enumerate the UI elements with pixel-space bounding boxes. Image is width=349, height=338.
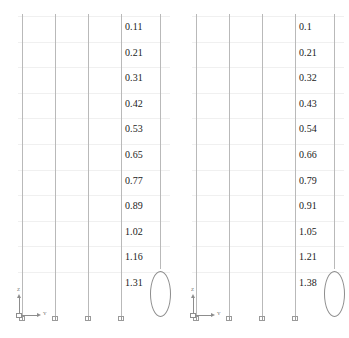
deflection-value-label: 0.1 bbox=[299, 22, 312, 32]
axis-y-arrow-icon bbox=[37, 313, 41, 317]
axis-y-label: Y bbox=[43, 311, 47, 316]
axis-z-label: Z bbox=[17, 287, 20, 292]
column-member[interactable] bbox=[121, 14, 122, 317]
deflection-value-label: 0.79 bbox=[299, 176, 317, 186]
column-member[interactable] bbox=[295, 14, 296, 317]
gridline bbox=[18, 118, 170, 119]
gridline bbox=[192, 221, 344, 222]
gridline bbox=[192, 272, 344, 273]
column-member[interactable] bbox=[22, 14, 23, 317]
axis-origin-icon bbox=[190, 313, 196, 318]
deflection-value-label: 1.05 bbox=[299, 227, 317, 237]
deflection-value-label: 1.02 bbox=[125, 227, 143, 237]
right-model-panel[interactable]: 0.10.210.320.430.540.660.790.911.051.211… bbox=[174, 0, 348, 338]
axis-y-arrow-icon bbox=[211, 313, 215, 317]
deflection-value-label: 0.42 bbox=[125, 99, 143, 109]
deflection-value-label: 1.16 bbox=[125, 252, 143, 262]
gridline bbox=[192, 144, 344, 145]
axis-triad-icon: ZY bbox=[193, 289, 227, 319]
gridline bbox=[18, 195, 170, 196]
axis-z-arrow-icon bbox=[17, 294, 21, 298]
column-member[interactable] bbox=[88, 14, 89, 317]
gridline bbox=[18, 221, 170, 222]
gridline bbox=[18, 16, 170, 17]
gridline bbox=[192, 67, 344, 68]
deflection-value-label: 0.66 bbox=[299, 150, 317, 160]
gridline bbox=[18, 144, 170, 145]
gridline bbox=[18, 42, 170, 43]
deflection-value-label: 1.38 bbox=[299, 278, 317, 288]
axis-z-arrow-icon bbox=[191, 294, 195, 298]
axis-z-label: Z bbox=[191, 287, 194, 292]
deflection-value-label: 0.31 bbox=[125, 73, 143, 83]
left-model-panel[interactable]: 0.110.210.310.420.530.650.770.891.021.16… bbox=[0, 0, 174, 338]
gridline bbox=[192, 170, 344, 171]
deflection-value-label: 0.43 bbox=[299, 99, 317, 109]
ellipse-member-stem bbox=[160, 14, 161, 269]
model-viewport: 0.110.210.310.420.530.650.770.891.021.16… bbox=[0, 0, 349, 338]
column-member[interactable] bbox=[262, 14, 263, 317]
gridline bbox=[18, 67, 170, 68]
deflection-value-label: 1.21 bbox=[299, 252, 317, 262]
gridline bbox=[192, 42, 344, 43]
gridline bbox=[192, 195, 344, 196]
ellipse-member-icon[interactable] bbox=[150, 271, 171, 317]
deflection-value-label: 0.77 bbox=[125, 176, 143, 186]
column-member[interactable] bbox=[55, 14, 56, 317]
deflection-value-label: 0.91 bbox=[299, 201, 317, 211]
deflection-value-label: 0.21 bbox=[299, 48, 317, 58]
fixed-base-support-icon bbox=[292, 316, 298, 321]
column-member[interactable] bbox=[229, 14, 230, 317]
fixed-base-support-icon bbox=[259, 316, 265, 321]
gridline bbox=[192, 246, 344, 247]
deflection-value-label: 0.65 bbox=[125, 150, 143, 160]
deflection-value-label: 1.31 bbox=[125, 278, 143, 288]
deflection-value-label: 0.11 bbox=[125, 22, 143, 32]
fixed-base-support-icon bbox=[85, 316, 91, 321]
axis-triad-icon: ZY bbox=[19, 289, 53, 319]
gridline bbox=[18, 93, 170, 94]
gridline bbox=[18, 170, 170, 171]
axis-y-label: Y bbox=[217, 311, 221, 316]
fixed-base-support-icon bbox=[118, 316, 124, 321]
column-member[interactable] bbox=[196, 14, 197, 317]
ellipse-member-icon[interactable] bbox=[324, 271, 345, 317]
deflection-value-label: 0.32 bbox=[299, 73, 317, 83]
deflection-value-label: 0.21 bbox=[125, 48, 143, 58]
deflection-value-label: 0.89 bbox=[125, 201, 143, 211]
gridline bbox=[192, 118, 344, 119]
gridline bbox=[18, 272, 170, 273]
ellipse-member-stem bbox=[334, 14, 335, 269]
deflection-value-label: 0.53 bbox=[125, 124, 143, 134]
gridline bbox=[18, 246, 170, 247]
gridline bbox=[192, 93, 344, 94]
deflection-value-label: 0.54 bbox=[299, 124, 317, 134]
axis-origin-icon bbox=[16, 313, 22, 318]
gridline bbox=[192, 16, 344, 17]
